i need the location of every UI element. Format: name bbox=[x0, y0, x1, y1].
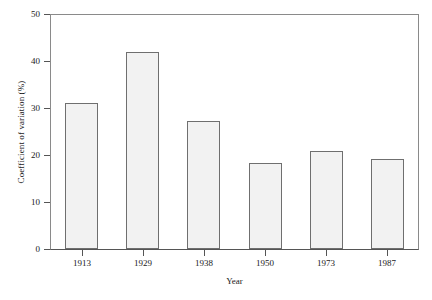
x-tick-label-1938: 1938 bbox=[179, 258, 229, 269]
bar-1913 bbox=[65, 103, 98, 249]
x-tick-mark-1938 bbox=[204, 250, 205, 256]
x-axis-title: Year bbox=[50, 276, 419, 287]
y-tick-label-10: 10 bbox=[20, 197, 40, 207]
x-tick-label-1973: 1973 bbox=[301, 258, 351, 269]
y-tick-label-20: 20 bbox=[20, 150, 40, 160]
y-tick-label-0: 0 bbox=[20, 244, 40, 254]
bar-1950 bbox=[249, 163, 282, 249]
bar-1973 bbox=[310, 151, 343, 249]
x-tick-label-1913: 1913 bbox=[57, 258, 107, 269]
x-tick-label-1987: 1987 bbox=[362, 258, 412, 269]
x-tick-mark-1913 bbox=[82, 250, 83, 256]
y-tick-label-30: 30 bbox=[20, 103, 40, 113]
x-tick-label-1929: 1929 bbox=[118, 258, 168, 269]
y-tick-label-50: 50 bbox=[20, 9, 40, 19]
bar-1929 bbox=[126, 52, 159, 249]
x-tick-mark-1973 bbox=[326, 250, 327, 256]
bar-chart-figure: Coefficient of variation (%) 0 10 20 30 … bbox=[0, 0, 432, 300]
x-tick-mark-1929 bbox=[143, 250, 144, 256]
x-tick-label-1950: 1950 bbox=[240, 258, 290, 269]
y-axis-title: Coefficient of variation (%) bbox=[12, 14, 30, 250]
bar-1987 bbox=[371, 159, 404, 249]
x-tick-mark-1987 bbox=[387, 250, 388, 256]
bar-1938 bbox=[187, 121, 220, 249]
y-tick-label-40: 40 bbox=[20, 56, 40, 66]
bars-layer bbox=[51, 14, 418, 249]
x-tick-mark-1950 bbox=[265, 250, 266, 256]
